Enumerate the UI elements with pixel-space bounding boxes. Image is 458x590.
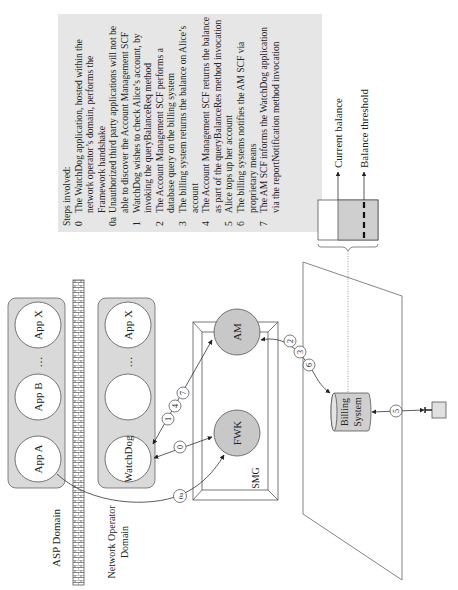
operator-ellipsis-label: … [122, 357, 134, 368]
step-text: The billing systems notifies the AM SCF … [235, 41, 246, 213]
step-marker-4: 4 [169, 400, 181, 412]
app-b-label: App B [32, 382, 44, 411]
balance-threshold-label: Balance threshold [358, 88, 370, 168]
balance-fill [338, 200, 378, 240]
svg-text:1: 1 [164, 417, 173, 421]
step-text: as part of the queryBalanceRes method in… [212, 19, 223, 213]
step-number: 6 [235, 221, 246, 226]
step-text: via the reportNotification method invoca… [270, 41, 281, 213]
step-text: able to discover the Account Management … [119, 32, 130, 213]
step-marker-5: 5 [390, 405, 402, 417]
step-text: The AM SCF informs the WatchDog applicat… [258, 27, 269, 213]
step-text: The billing system returns the balance o… [177, 25, 188, 213]
step-number: 0 [73, 221, 84, 226]
step-marker-6: 6 [303, 359, 315, 371]
empty-app-node [105, 374, 151, 420]
step-text: database query on the billing system [165, 73, 176, 213]
billing-system: Billing System [331, 393, 371, 431]
network-operator-label-line1: Network Operator [106, 505, 117, 579]
step-text: The Account Management SCF returns the b… [200, 17, 211, 213]
step-marker-7: 7 [177, 387, 189, 399]
step-number: 5 [223, 221, 234, 226]
smg-box: AM FWK SMG [193, 309, 278, 500]
balance-indicator: Current balance Balance threshold [318, 88, 378, 400]
firewall [73, 280, 84, 585]
svg-text:5: 5 [392, 409, 401, 413]
fwk-label: FWK [231, 421, 243, 446]
svg-text:0a: 0a [177, 492, 185, 500]
svg-text:0: 0 [176, 445, 185, 449]
asp-app-container: App A App B … App X [8, 298, 65, 488]
step-text: Alice tops up her account [223, 115, 234, 213]
steps-box: Steps involved:0The WatchDog application… [58, 14, 322, 232]
ellipsis-label: … [32, 357, 44, 368]
step-text: WatchDog wishes to check Alice’s account… [131, 33, 142, 213]
svg-text:3: 3 [296, 350, 305, 354]
smg-label: SMG [250, 467, 261, 489]
step-text: account [189, 183, 200, 213]
billing-label-line2: System [352, 397, 363, 427]
operator-app-x-label: App X [122, 310, 134, 340]
step-text: proprietary means [247, 143, 258, 213]
current-balance-label: Current balance [332, 98, 344, 168]
step-number: 7 [258, 221, 269, 226]
step-number: 4 [200, 221, 211, 226]
operator-app-container: WatchDog … App X [98, 298, 155, 488]
step-text: invoking the queryBalanceReq method [142, 63, 153, 213]
network-operator-label-line2: Domain [119, 526, 130, 558]
step-text: Framework handshake [96, 126, 107, 213]
step-text: network operator’s domain, performs the [84, 56, 95, 213]
watchdog-label: WatchDog [122, 435, 134, 482]
app-a-label: App A [32, 444, 44, 473]
step-text: Unauthorized third party applications wi… [107, 26, 118, 213]
svg-text:6: 6 [305, 363, 314, 367]
step-marker-3: 3 [294, 346, 306, 358]
asp-domain-label: ASP Domain [50, 509, 62, 567]
step-marker-1: 1 [162, 413, 174, 425]
step-marker-0a: 0a [174, 490, 187, 503]
step-number: 3 [177, 221, 188, 226]
step-marker-2: 2 [284, 335, 296, 347]
step-number: 0a [107, 216, 118, 226]
step-text: The Account Management SCF performs a [154, 47, 165, 213]
billing-label-line1: Billing [339, 398, 350, 426]
step-marker-0: 0 [174, 441, 186, 453]
balance-brace [318, 244, 378, 251]
app-x-label: App X [32, 310, 44, 340]
svg-text:2: 2 [286, 339, 295, 343]
svg-text:7: 7 [179, 391, 188, 395]
step-number: 2 [154, 221, 165, 226]
step-text: The WatchDog application, hosted within … [73, 39, 84, 213]
am-label: AM [231, 323, 243, 341]
service-architecture-diagram: Steps involved:0The WatchDog application… [0, 0, 458, 590]
phone-icon [425, 402, 446, 418]
step-number: 1 [131, 221, 142, 226]
svg-text:4: 4 [171, 404, 180, 408]
steps-heading: Steps involved: [61, 167, 72, 226]
